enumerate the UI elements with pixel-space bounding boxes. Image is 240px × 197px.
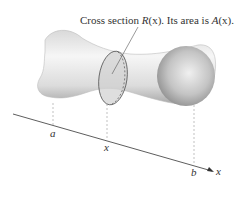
label-a: a <box>50 127 56 139</box>
caption: Cross section R(x). Its area is A(x). <box>80 14 234 26</box>
diagram: Cross section R(x). Its area is A(x). a … <box>0 0 240 197</box>
x-axis-arrow-icon <box>207 167 214 172</box>
x-axis <box>13 114 212 171</box>
right-end-cap <box>157 46 215 106</box>
label-b: b <box>191 166 197 178</box>
axis-label-x: x <box>216 165 221 177</box>
label-x: x <box>104 141 109 153</box>
solid-illustration <box>0 0 240 197</box>
